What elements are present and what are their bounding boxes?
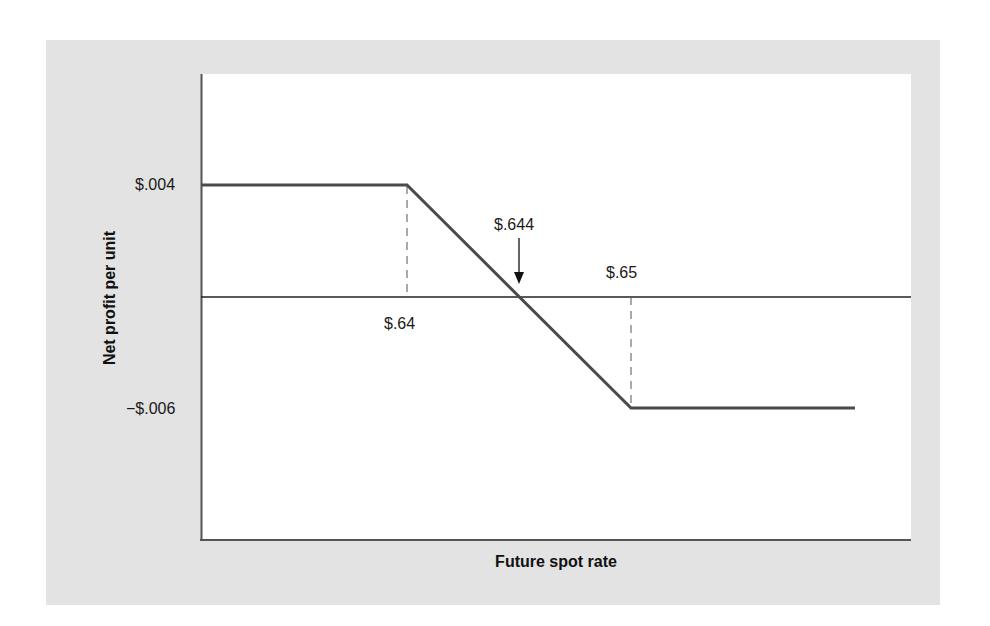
x-annot-065: $.65	[606, 264, 637, 282]
y-tick-bottom: −$.006	[126, 400, 175, 418]
x-annot-064: $.64	[384, 315, 415, 333]
x-axis-label: Future spot rate	[495, 553, 617, 571]
y-axis-label: Net profit per unit	[101, 231, 119, 365]
plot-area	[201, 74, 911, 540]
chart-plot	[0, 0, 990, 626]
x-annot-0644: $.644	[494, 216, 534, 234]
y-tick-top: $.004	[135, 176, 175, 194]
